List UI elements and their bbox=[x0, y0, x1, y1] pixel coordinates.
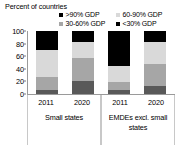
chart-legend: >90% GDP 60-90% GDP 30-60% GDP <30% GDP bbox=[59, 10, 179, 28]
bar-segment bbox=[108, 82, 130, 90]
legend-swatch-icon bbox=[59, 13, 63, 17]
legend-swatch-icon bbox=[116, 22, 120, 26]
y-axis-tick bbox=[24, 68, 26, 69]
bar-segment bbox=[36, 77, 58, 90]
bar-small-states-2020[interactable] bbox=[72, 31, 94, 94]
bar-segment bbox=[36, 90, 58, 94]
year-labels-row: 2011 2020 bbox=[102, 95, 174, 111]
y-axis-tick bbox=[24, 81, 26, 82]
y-axis-labels: 100 80 60 40 20 0 bbox=[0, 27, 24, 98]
y-tick-label: 60 bbox=[16, 52, 24, 61]
group-label-small-states: Small states bbox=[28, 113, 100, 123]
y-axis-tick bbox=[24, 31, 26, 32]
bar-segment bbox=[144, 86, 166, 94]
bar-segment bbox=[72, 58, 94, 81]
legend-row: >90% GDP 60-90% GDP bbox=[59, 10, 179, 19]
bar-segment bbox=[72, 31, 94, 42]
bar-segment bbox=[72, 42, 94, 58]
year-labels-row: 2011 2020 bbox=[28, 95, 100, 111]
group-label-emdes: EMDEs excl. small states bbox=[102, 113, 174, 132]
category-group-emdes: 2011 2020 EMDEs excl. small states bbox=[101, 95, 175, 145]
bar-segment bbox=[72, 81, 94, 94]
legend-item-label: 30-60% GDP bbox=[66, 20, 106, 27]
bar-segment bbox=[144, 42, 166, 63]
bar-segment bbox=[108, 31, 130, 66]
y-tick-label: 20 bbox=[16, 77, 24, 86]
y-axis-tick bbox=[24, 43, 26, 44]
bar-small-states-2011[interactable] bbox=[36, 31, 58, 94]
y-tick-label: 80 bbox=[16, 39, 24, 48]
legend-item-60-90: 60-90% GDP bbox=[116, 11, 176, 18]
bar-segment bbox=[108, 66, 130, 82]
legend-item-lt30: <30% GDP bbox=[116, 20, 176, 27]
bar-segment bbox=[36, 31, 58, 50]
plot-area bbox=[27, 31, 175, 94]
legend-item-label: >90% GDP bbox=[66, 11, 100, 18]
y-tick-label: 100 bbox=[12, 27, 24, 36]
bar-segment bbox=[36, 50, 58, 77]
y-axis-tick bbox=[24, 56, 26, 57]
chart-axis-title: Percent of countries bbox=[5, 2, 67, 11]
legend-swatch-icon bbox=[116, 13, 120, 17]
x-tick-label-2011: 2011 bbox=[100, 98, 140, 107]
legend-item-label: <30% GDP bbox=[123, 20, 157, 27]
legend-item-30-60: 30-60% GDP bbox=[59, 20, 116, 27]
bar-emdes-2011[interactable] bbox=[108, 31, 130, 94]
legend-item-label: 60-90% GDP bbox=[123, 11, 163, 18]
bar-emdes-2020[interactable] bbox=[144, 31, 166, 94]
legend-swatch-icon bbox=[59, 22, 63, 26]
bar-segment bbox=[144, 31, 166, 42]
bar-segment bbox=[108, 90, 130, 94]
y-tick-label: 40 bbox=[16, 64, 24, 73]
stacked-bar-chart: Percent of countries >90% GDP 60-90% GDP… bbox=[0, 0, 181, 146]
category-group-small-states: 2011 2020 Small states bbox=[27, 95, 101, 145]
legend-item-gt90: >90% GDP bbox=[59, 11, 116, 18]
x-tick-label-2020: 2020 bbox=[136, 98, 176, 107]
bar-segment bbox=[144, 64, 166, 86]
y-axis-tick bbox=[24, 94, 26, 95]
legend-row: 30-60% GDP <30% GDP bbox=[59, 19, 179, 28]
x-tick-label-2011: 2011 bbox=[26, 98, 66, 107]
bars-container bbox=[27, 31, 175, 94]
x-tick-label-2020: 2020 bbox=[62, 98, 102, 107]
